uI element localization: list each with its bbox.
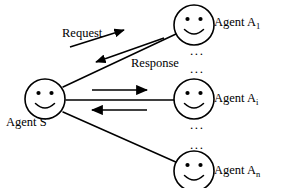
ellipsis-upper-first: ... [190, 44, 205, 57]
node-label-agent-a1-subscript: 1 [256, 21, 260, 31]
node-label-agent-ai: Agent Ai [214, 92, 258, 105]
node-label-agent-ai-text: Agent A [214, 91, 256, 105]
ellipsis-upper-second: ... [190, 62, 205, 75]
node-label-agent-an: Agent An [214, 164, 260, 177]
node-label-agent-a1-text: Agent A [214, 15, 256, 29]
smiley-face-icon-agent-an [174, 151, 214, 188]
edge-label-request: Request [62, 27, 102, 40]
agent-interaction-diagram: Agent S Agent A1 Agent Ai Agent An Reque… [0, 0, 283, 188]
ellipsis-lower-first: ... [190, 118, 205, 131]
node-label-agent-a1: Agent A1 [214, 16, 260, 29]
smiley-face-icon-agent-ai [174, 79, 214, 119]
edge-label-response: Response [131, 57, 179, 70]
node-label-agent-an-text: Agent A [214, 163, 256, 177]
node-label-agent-s-text: Agent S [6, 115, 47, 129]
node-label-agent-an-subscript: n [256, 169, 260, 179]
connector-s-to-an [63, 112, 178, 163]
node-label-agent-s: Agent S [6, 116, 47, 129]
smiley-face-icon-agent-s [25, 79, 65, 119]
ellipsis-lower-second: ... [190, 138, 205, 151]
smiley-face-icon-agent-a1 [174, 5, 214, 45]
